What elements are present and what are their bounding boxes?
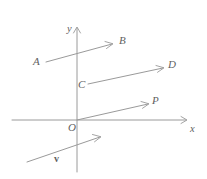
vector-v-label: v xyxy=(54,154,59,164)
vector-cd-head-label: D xyxy=(168,59,176,70)
vector-op-line xyxy=(77,104,148,120)
vector-cd-tail-label: C xyxy=(78,79,85,90)
vector-ab-tail-label: A xyxy=(33,56,40,67)
vector-v-line xyxy=(27,137,100,162)
vector-diagram-figure: y x O A B C D P v xyxy=(0,0,207,179)
y-axis-label: y xyxy=(67,24,72,35)
vector-cd-line xyxy=(88,68,163,84)
vector-op-head-label: P xyxy=(152,95,159,106)
vector-ab-head-label: B xyxy=(119,35,126,46)
origin-label: O xyxy=(68,122,76,133)
x-axis-label: x xyxy=(190,124,195,135)
vector-ab-line xyxy=(46,44,112,62)
diagram-canvas xyxy=(0,0,207,179)
